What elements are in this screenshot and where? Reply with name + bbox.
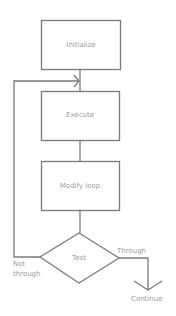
not-through-label-line1: Not — [13, 260, 25, 268]
not-through-label-line2: through — [13, 270, 41, 278]
execute-label: Execute — [41, 111, 119, 119]
through-label: Through — [117, 247, 146, 255]
through-line — [119, 258, 148, 290]
not-through-loop-line — [14, 81, 79, 257]
test-label: Test — [40, 254, 118, 262]
initialize-label: Initialize — [42, 41, 120, 49]
continue-label: Continue — [131, 295, 162, 303]
modify-loop-label: Modify loop — [41, 182, 119, 190]
